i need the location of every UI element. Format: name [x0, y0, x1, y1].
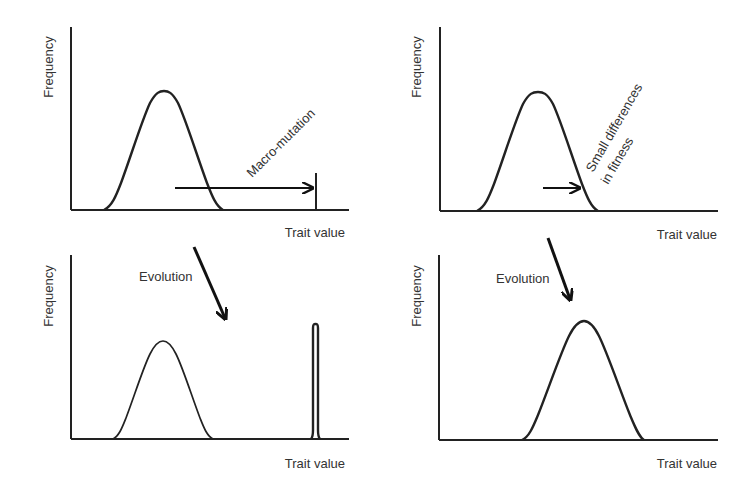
evolution-diagram: Frequency Trait value Macro-mutation Fre…: [0, 0, 755, 492]
panel-top-left: Frequency Trait value Macro-mutation: [41, 27, 349, 240]
evolution-label: Evolution: [139, 269, 192, 284]
panel-bottom-left: Evolution Frequency Trait value: [41, 247, 349, 471]
distribution-curve: [113, 341, 213, 439]
y-axis-label: Frequency: [409, 36, 424, 98]
y-axis-label: Frequency: [409, 265, 424, 327]
distribution-curve: [522, 321, 644, 440]
x-axis-label: Trait value: [657, 227, 717, 242]
x-axis-label: Trait value: [285, 225, 345, 240]
x-axis-label: Trait value: [285, 456, 345, 471]
panel-bottom-right: Evolution Frequency Trait value: [409, 238, 718, 471]
distribution-curve: [477, 92, 598, 211]
distribution-curve: [104, 91, 223, 210]
y-axis-label: Frequency: [41, 36, 56, 98]
evolution-label: Evolution: [496, 271, 549, 286]
y-axis-label: Frequency: [41, 265, 56, 327]
mutant-spike: [311, 324, 320, 439]
evolution-arrow: [548, 238, 570, 299]
macro-mutation-label: Macro-mutation: [244, 106, 318, 180]
x-axis-label: Trait value: [657, 456, 717, 471]
panel-top-right: Frequency Trait value Small differences …: [409, 27, 718, 242]
evolution-arrow: [194, 247, 225, 318]
